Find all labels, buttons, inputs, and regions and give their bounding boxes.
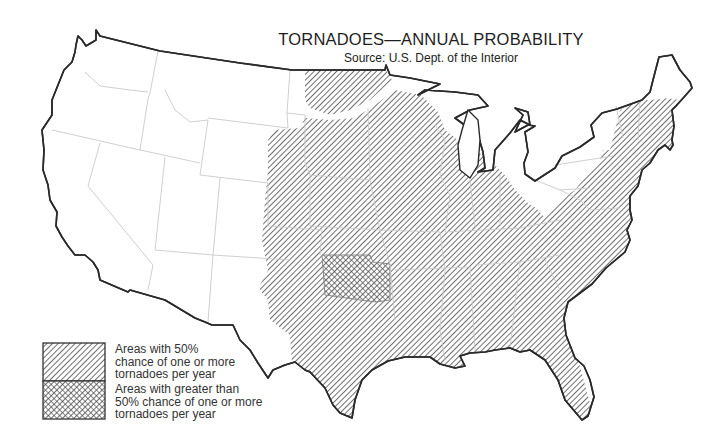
legend-line: tornadoes per year [115,368,315,381]
legend-label-50: Areas with 50% chance of one or more tor… [115,343,315,381]
legend-line: Areas with 50% [115,343,315,356]
us-map [0,0,728,445]
legend-swatch-50 [43,343,105,381]
map-source: Source: U.S. Dept. of the Interior [0,51,728,65]
map-title: TORNADOES—ANNUAL PROBABILITY [0,30,728,49]
lake-michigan [458,110,480,178]
legend-label-greater-50: Areas with greater than 50% chance of on… [115,383,315,421]
legend-swatches [42,342,106,420]
legend-line: Areas with greater than [115,383,315,396]
legend-line: tornadoes per year [115,408,315,421]
tornado-probability-map: TORNADOES—ANNUAL PROBABILITY Source: U.S… [0,0,728,445]
